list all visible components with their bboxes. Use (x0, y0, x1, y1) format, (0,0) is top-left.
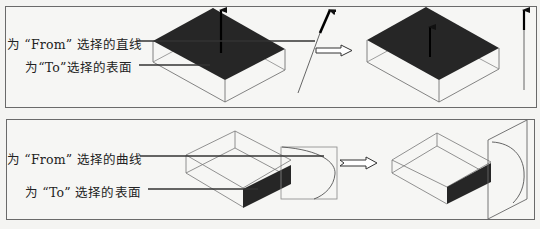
from-line-arrow (320, 10, 330, 33)
to-curve (492, 142, 524, 203)
bottom-right-selected-face (447, 163, 491, 204)
bottom-left-box (186, 131, 291, 207)
bottom-transform-arrow-icon (340, 157, 377, 169)
top-left-selected-face (153, 8, 285, 80)
top-right-selected-face (367, 7, 499, 80)
top-transform-arrow-icon (316, 45, 352, 56)
bottom-right-box (392, 133, 491, 204)
from-line (298, 33, 320, 93)
bottom-right-plane (488, 120, 527, 219)
diagram-canvas (0, 0, 540, 229)
bottom-left-selected-face (243, 165, 291, 208)
